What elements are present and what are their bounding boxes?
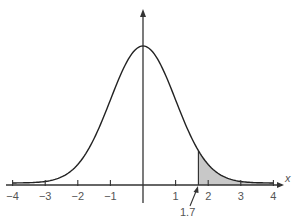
tick-label: −4	[6, 190, 19, 202]
normal-distribution-chart: x −4−3−2−11234 1.7	[0, 0, 292, 224]
shaded-tail-region	[198, 151, 273, 185]
tick-label: −1	[104, 190, 117, 202]
axes: x	[6, 9, 291, 203]
tick-label: −2	[72, 190, 85, 202]
tick-label: 4	[270, 190, 276, 202]
annotation-arrow-head-icon	[194, 186, 199, 193]
tail-area	[198, 151, 273, 185]
tick-label: 1	[173, 190, 179, 202]
x-axis-arrow-icon	[277, 182, 284, 188]
annotation-1-7: 1.7	[180, 186, 199, 218]
tick-label: 2	[205, 190, 211, 202]
y-axis-arrow-icon	[140, 9, 146, 17]
tick-label: 3	[238, 190, 244, 202]
tick-label: −3	[39, 190, 52, 202]
x-axis-label: x	[284, 172, 291, 184]
annotation-label: 1.7	[180, 206, 195, 218]
